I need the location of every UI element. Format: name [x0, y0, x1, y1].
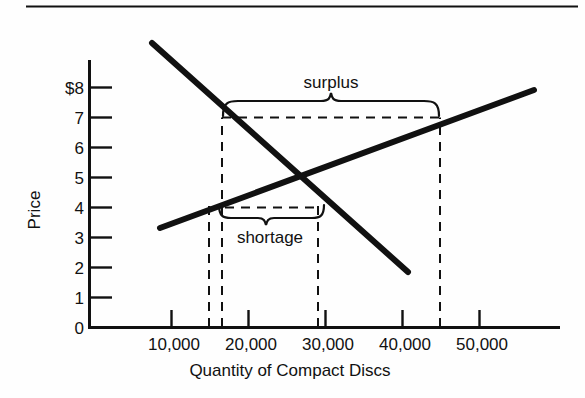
y-tick-label-6: 6: [75, 139, 84, 158]
surplus-label: surplus: [304, 73, 359, 92]
shortage-label: shortage: [237, 228, 303, 247]
figure-container: $8 7 6 5 4 3 2 1 0 10,000 20,000 30,000 …: [0, 0, 585, 398]
surplus-bracket: [223, 93, 439, 116]
x-axis-ticks: [172, 310, 480, 326]
supply-curve: [160, 90, 534, 228]
y-tick-label-4: 4: [75, 199, 84, 218]
y-tick-label-5: 5: [75, 169, 84, 188]
y-tick-label-2: 2: [75, 259, 84, 278]
x-tick-label-30000: 30,000: [302, 335, 354, 354]
y-axis-ticks: [90, 88, 112, 298]
y-axis-title: Price: [25, 191, 44, 230]
x-axis-title: Quantity of Compact Discs: [189, 361, 390, 380]
y-tick-label-0: 0: [75, 319, 84, 338]
x-tick-label-40000: 40,000: [379, 335, 431, 354]
supply-demand-chart: $8 7 6 5 4 3 2 1 0 10,000 20,000 30,000 …: [0, 0, 585, 398]
y-tick-label-1: 1: [75, 289, 84, 308]
x-tick-label-50000: 50,000: [456, 335, 508, 354]
y-tick-label-7: 7: [75, 109, 84, 128]
x-tick-label-10000: 10,000: [148, 335, 200, 354]
y-tick-label-8: $8: [65, 79, 84, 98]
guide-lines: [209, 118, 440, 328]
y-tick-label-3: 3: [75, 229, 84, 248]
x-tick-label-20000: 20,000: [225, 335, 277, 354]
